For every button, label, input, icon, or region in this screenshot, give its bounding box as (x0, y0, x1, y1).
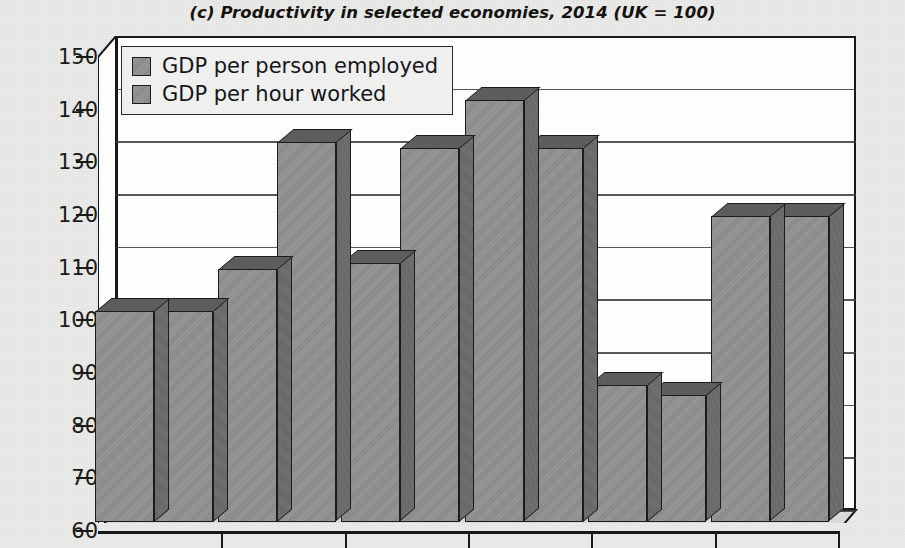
bar-gdp-per-person-employed (95, 311, 154, 522)
x-axis-tick (838, 533, 840, 548)
bar-side-face (583, 135, 598, 522)
y-axis-tick-mark (76, 425, 93, 427)
y-axis-tick-mark (76, 267, 93, 269)
bar-side-face (400, 251, 415, 522)
legend-swatch-icon (132, 85, 151, 104)
y-axis-tick-mark (76, 477, 93, 479)
bar-side-face (524, 88, 539, 522)
y-axis-tick-mark (76, 161, 93, 163)
gridline (116, 36, 856, 38)
bar-side-face (770, 203, 785, 521)
y-axis-tick-mark (76, 319, 93, 321)
bar-side-face (154, 298, 169, 521)
y-axis-tick-mark (76, 372, 93, 374)
x-axis-tick (345, 533, 347, 548)
y-axis-tick-mark (76, 56, 93, 58)
legend-item-gdp-per-hour-worked: GDP per hour worked (132, 80, 438, 108)
legend-swatch-icon (132, 57, 151, 76)
bar-side-face (213, 298, 228, 521)
y-axis-tick-mark (76, 214, 93, 216)
legend-item-gdp-per-person-employed: GDP per person employed (132, 52, 438, 80)
y-axis: 15014013012011010090807060 (0, 0, 98, 535)
x-axis-tick (468, 533, 470, 548)
y-axis-tick-mark (76, 109, 93, 111)
y-axis-tick-mark (76, 530, 93, 532)
bar-side-face (336, 130, 351, 522)
x-axis-tick (221, 533, 223, 548)
x-axis-tick (591, 533, 593, 548)
chart-title: (c) Productivity in selected economies, … (0, 3, 905, 22)
x-axis-tick (715, 533, 717, 548)
chart-legend: GDP per person employed GDP per hour wor… (121, 46, 453, 115)
bar-side-face (829, 203, 844, 521)
bar-side-face (277, 256, 292, 521)
bar-front-face (95, 311, 154, 522)
bar-side-face (459, 135, 474, 522)
legend-label: GDP per person employed (162, 56, 438, 77)
bar-side-face (706, 383, 721, 522)
bar-side-face (647, 372, 662, 522)
legend-label: GDP per hour worked (162, 84, 386, 105)
